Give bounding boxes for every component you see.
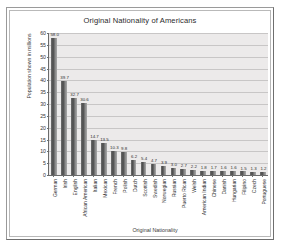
- bar-slot: 39.7: [59, 33, 69, 175]
- x-tick-mark: [182, 175, 183, 177]
- bar-slot: 6.2: [129, 33, 139, 175]
- x-tick-mark: [143, 175, 144, 177]
- bar: [91, 140, 97, 175]
- bar-slot: 9.8: [119, 33, 129, 175]
- x-tick-slot: [157, 175, 167, 178]
- x-axis-ticks: [48, 175, 267, 178]
- bar-value-label: 32.7: [70, 93, 79, 97]
- x-label-slot: Hungarian: [227, 179, 237, 229]
- bar: [161, 166, 167, 175]
- bar: [121, 152, 127, 175]
- bar-slot: 32.7: [69, 33, 79, 175]
- chart-inner-border: Original Nationality of Americans Popula…: [9, 10, 271, 237]
- x-axis-title: Original Nationality: [40, 227, 270, 233]
- x-tick-slot: [88, 175, 98, 178]
- x-tick-mark: [222, 175, 223, 177]
- x-tick-slot: [98, 175, 108, 178]
- bar-value-label: 9.8: [121, 147, 127, 151]
- bar-slot: 4.7: [149, 33, 159, 175]
- y-tick-label: 30: [40, 101, 46, 107]
- y-tick-label: 60: [40, 30, 46, 36]
- x-tick-slot: [187, 175, 197, 178]
- bar-value-label: 2.7: [181, 164, 187, 168]
- y-tick-label: 10: [40, 148, 46, 154]
- x-label-slot: Irish: [58, 179, 68, 229]
- bar-slot: 2.7: [178, 33, 188, 175]
- bar-value-label: 6.2: [131, 155, 137, 159]
- bar-slot: 1.6: [228, 33, 238, 175]
- bar-series: 58.039.732.730.614.713.510.39.86.25.44.7…: [49, 33, 268, 175]
- x-tick-slot: [138, 175, 148, 178]
- x-tick-mark: [172, 175, 173, 177]
- y-tick-label: 0: [43, 172, 46, 178]
- x-tick-mark: [73, 175, 74, 177]
- x-label-slot: Czech: [247, 179, 257, 229]
- bar-slot: 3.0: [168, 33, 178, 175]
- x-label-slot: French: [108, 179, 118, 229]
- x-label-slot: Swedish: [148, 179, 158, 229]
- bar-slot: 14.7: [89, 33, 99, 175]
- bar-value-label: 58.0: [50, 33, 59, 37]
- x-label-slot: African American: [78, 179, 88, 229]
- bar-slot: 1.5: [238, 33, 248, 175]
- bar-slot: 13.5: [99, 33, 109, 175]
- bar-value-label: 3.9: [161, 161, 167, 165]
- bar-value-label: 13.5: [100, 138, 109, 142]
- x-tick-slot: [48, 175, 58, 178]
- bar-value-label: 1.8: [201, 166, 207, 170]
- x-tick-slot: [177, 175, 187, 178]
- x-label-slot: Danish: [217, 179, 227, 229]
- y-tick-label: 50: [40, 54, 46, 60]
- bar-value-label: 3.0: [171, 163, 177, 167]
- bar-slot: 58.0: [49, 33, 59, 175]
- y-tick-label: 15: [40, 137, 46, 143]
- bar-value-label: 39.7: [60, 76, 69, 80]
- x-tick-mark: [153, 175, 154, 177]
- x-tick-slot: [257, 175, 267, 178]
- y-tick-label: 5: [43, 160, 46, 166]
- bar: [131, 160, 137, 175]
- x-tick-mark: [123, 175, 124, 177]
- x-tick-slot: [167, 175, 177, 178]
- chart-title: Original Nationality of Americans: [10, 16, 270, 25]
- x-label-slot: Puerto Rican: [177, 179, 187, 229]
- bar-value-label: 1.5: [241, 167, 247, 171]
- x-label-slot: Dutch: [128, 179, 138, 229]
- x-label-slot: Chinese: [207, 179, 217, 229]
- x-tick-slot: [227, 175, 237, 178]
- x-label-slot: English: [68, 179, 78, 229]
- x-label-slot: Filipino: [237, 179, 247, 229]
- bar-value-label: 1.7: [211, 166, 217, 170]
- x-tick-slot: [237, 175, 247, 178]
- x-axis-category-labels: GermanIrishEnglishAfrican AmericanItalia…: [48, 179, 267, 229]
- x-tick-mark: [252, 175, 253, 177]
- x-tick-mark: [93, 175, 94, 177]
- bar-value-label: 2.2: [191, 165, 197, 169]
- bar: [101, 143, 107, 175]
- x-tick-slot: [58, 175, 68, 178]
- x-category-label: Portuguese: [262, 179, 267, 205]
- bar-slot: 1.3: [248, 33, 258, 175]
- x-tick-mark: [202, 175, 203, 177]
- x-tick-slot: [217, 175, 227, 178]
- x-tick-mark: [53, 175, 54, 177]
- plot-area: 605550454035302520151050 58.039.732.730.…: [48, 33, 268, 176]
- bar: [141, 162, 147, 175]
- x-tick-mark: [162, 175, 163, 177]
- x-tick-mark: [232, 175, 233, 177]
- bar-slot: 30.6: [79, 33, 89, 175]
- chart-frame: Original Nationality of Americans Popula…: [6, 7, 274, 240]
- x-tick-slot: [78, 175, 88, 178]
- x-tick-mark: [242, 175, 243, 177]
- bar-slot: 5.4: [139, 33, 149, 175]
- bar-value-label: 10.3: [110, 146, 119, 150]
- y-tick-label: 25: [40, 113, 46, 119]
- y-tick-label: 55: [40, 42, 46, 48]
- x-label-slot: Norwegian: [157, 179, 167, 229]
- bar: [171, 168, 177, 175]
- bar-value-label: 14.7: [90, 135, 99, 139]
- bar-value-label: 5.4: [141, 157, 147, 161]
- x-label-slot: Welsh: [187, 179, 197, 229]
- bar: [111, 151, 117, 175]
- screenshot-root: Original Nationality of Americans Popula…: [0, 0, 282, 250]
